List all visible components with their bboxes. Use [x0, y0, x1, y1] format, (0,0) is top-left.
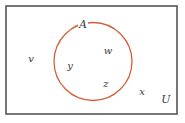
venn-diagram: A U w y z v x — [0, 0, 185, 123]
element-y-label: y — [67, 61, 73, 71]
universal-set-label: U — [161, 94, 170, 105]
element-v-label: v — [28, 54, 34, 64]
set-a-label: A — [78, 19, 88, 30]
element-w-label: w — [104, 46, 113, 56]
element-z-label: z — [103, 79, 108, 89]
element-x-label: x — [139, 87, 145, 97]
